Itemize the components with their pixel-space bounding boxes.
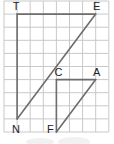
point-label-n: N [12,123,20,135]
point-label-e: E [93,0,100,12]
page-shadow [26,137,90,144]
point-label-f: F [47,123,54,135]
point-label-t: T [13,0,20,12]
point-label-a: A [93,66,101,78]
point-label-c: C [54,66,62,78]
grid-diagram: TENCAF [0,0,114,144]
